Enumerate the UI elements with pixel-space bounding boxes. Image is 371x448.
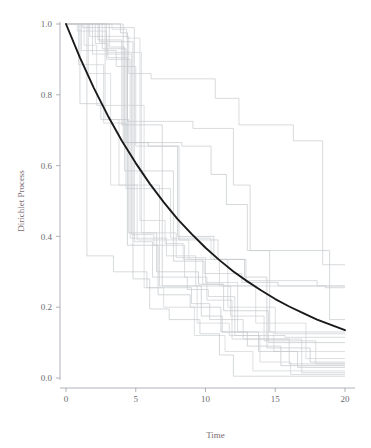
y-tick-label: 0.2 [41,302,52,312]
dirichlet-process-plot: 0.00.20.40.60.81.005101520TimeDirichlet … [0,0,371,448]
x-tick-label: 15 [271,394,281,404]
x-tick-label: 5 [134,394,139,404]
y-axis-title: Dirichlet Process [16,170,26,232]
x-tick-label: 10 [201,394,211,404]
x-tick-label: 20 [341,394,351,404]
x-axis-title: Time [206,430,225,440]
y-tick-label: 1.0 [41,19,53,29]
y-tick-label: 0.8 [41,90,53,100]
plot-background [0,0,371,448]
y-tick-label: 0.4 [41,232,53,242]
y-tick-label: 0.6 [41,161,53,171]
chart-figure: 0.00.20.40.60.81.005101520TimeDirichlet … [0,0,371,448]
y-tick-label: 0.0 [41,373,53,383]
x-tick-label: 0 [64,394,69,404]
